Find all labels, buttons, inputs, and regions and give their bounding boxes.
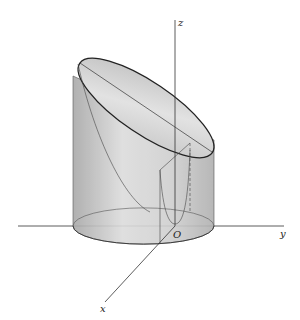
cylinder-diagram: z y x O — [0, 0, 300, 320]
diagram-canvas: z y x O — [0, 0, 300, 320]
y-axis-label: y — [279, 228, 286, 239]
x-axis-label: x — [100, 303, 106, 314]
z-axis-label: z — [177, 17, 184, 28]
origin-label: O — [173, 229, 181, 240]
